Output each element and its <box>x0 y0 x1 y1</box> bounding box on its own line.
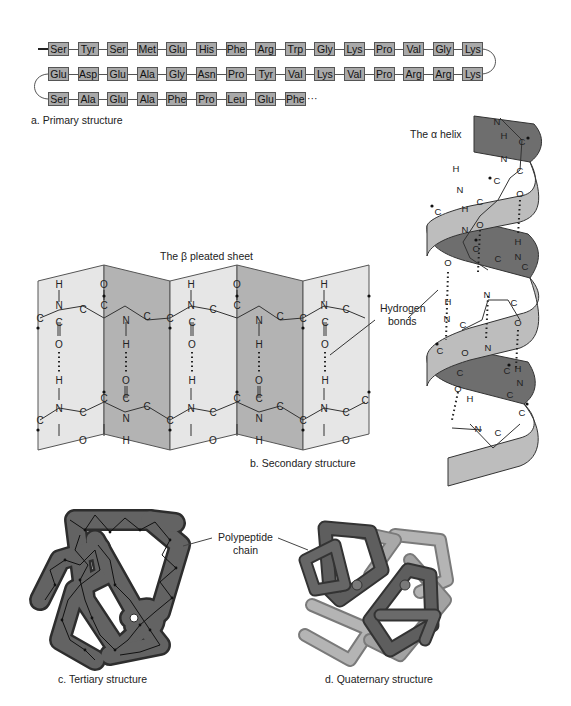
quaternary-structure-caption: d. Quaternary structure <box>325 673 433 685</box>
quaternary-structure-diagram <box>0 0 571 706</box>
